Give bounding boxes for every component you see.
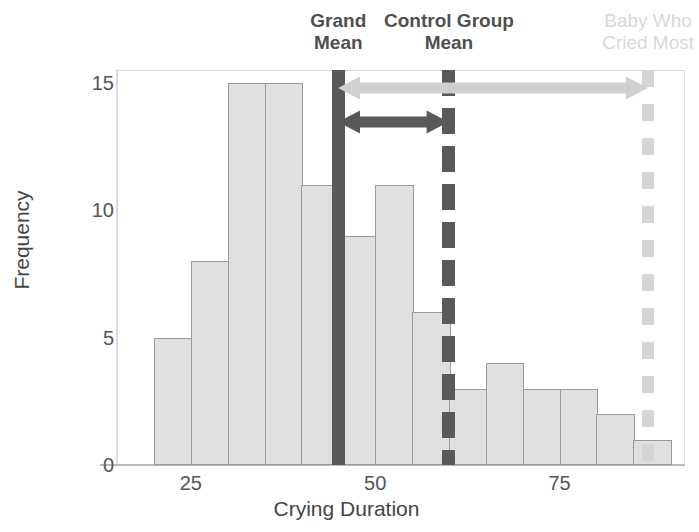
y-tick-label: 0 xyxy=(68,455,114,475)
y-tick-label: 5 xyxy=(68,328,114,348)
y-tick-label: 15 xyxy=(68,73,114,93)
x-tick-label: 75 xyxy=(530,472,590,495)
histogram-bar xyxy=(523,389,561,465)
x-axis-title: Crying Duration xyxy=(0,497,693,521)
arrow-grand-mean-to-control-mean xyxy=(338,107,449,137)
histogram-bar xyxy=(560,389,598,465)
y-tick-label: 10 xyxy=(68,200,114,220)
annotation-line-baby-who-cried-most xyxy=(642,70,654,465)
arrow-grand-mean-to-baby xyxy=(338,73,648,103)
histogram-bar xyxy=(486,363,524,465)
annotation-label-control-group-mean: Control Group Mean xyxy=(364,10,534,54)
x-tick-label: 50 xyxy=(345,472,405,495)
histogram-bar xyxy=(228,83,266,465)
x-tick-label: 25 xyxy=(161,472,221,495)
histogram-bar xyxy=(375,185,413,465)
histogram-bar xyxy=(265,83,303,465)
histogram-bar xyxy=(154,338,192,465)
y-axis-ticks: 051015 xyxy=(56,0,114,532)
histogram-bar xyxy=(191,261,229,465)
y-axis-title: Frequency xyxy=(10,140,34,340)
histogram-bar xyxy=(596,414,634,465)
annotation-label-baby-who-cried-most: Baby Who Cried Most xyxy=(563,10,699,54)
